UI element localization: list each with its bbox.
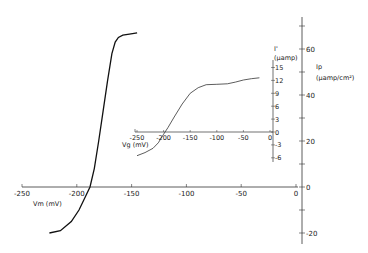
main-x-tick-label: -150 xyxy=(124,190,140,198)
inset-y-tick-label: -6 xyxy=(275,154,281,162)
inset-y-tick-label: 15 xyxy=(275,64,283,72)
main-x-tick-label: 0 xyxy=(294,190,298,198)
inset-x-tick-label: -100 xyxy=(209,134,224,142)
inset-y-tick-label: 12 xyxy=(275,77,283,85)
inset-y-axis-label-unit: (µamp) xyxy=(274,55,298,62)
main-x-tick-label: -50 xyxy=(235,190,246,198)
inset-y-tick-label: 6 xyxy=(275,103,279,111)
inset-x-tick-label: -200 xyxy=(156,134,171,142)
inset-x-axis-label: Vg (mV) xyxy=(122,142,149,149)
inset-y-tick-label: 0 xyxy=(275,129,279,137)
inset-axes: -250-200-150-100-50015129630-3-6 xyxy=(130,60,284,162)
main-y-tick-label: 0 xyxy=(306,184,310,192)
inset-y-tick-label: 9 xyxy=(275,90,279,98)
main-y-axis-label-unit: (µamp/cm²) xyxy=(316,75,354,82)
main-y-tick-label: 60 xyxy=(306,46,315,54)
inset-x-tick-label: -50 xyxy=(238,134,249,142)
main-x-tick-label: -200 xyxy=(69,190,85,198)
inset-y-axis-label-symbol: I' xyxy=(274,46,278,53)
main-y-tick-label: 20 xyxy=(306,138,315,146)
inset-y-tick-label: -3 xyxy=(275,141,281,149)
inset-x-tick-label: 0 xyxy=(268,134,272,142)
main-y-tick-label: -20 xyxy=(306,230,317,238)
main-x-axis-label: Vm (mV) xyxy=(33,201,62,208)
main-curve xyxy=(49,33,137,233)
chart-canvas: -250-200-150-100-5006040200-20 -250-200-… xyxy=(0,0,368,253)
main-y-tick-label: 40 xyxy=(306,92,315,100)
inset-x-tick-label: -150 xyxy=(183,134,198,142)
main-y-axis-label-symbol: Ip xyxy=(316,64,322,71)
inset-y-tick-label: 3 xyxy=(275,116,279,124)
main-x-tick-label: -100 xyxy=(178,190,194,198)
main-x-tick-label: -250 xyxy=(14,190,30,198)
inset-curve xyxy=(137,78,259,156)
